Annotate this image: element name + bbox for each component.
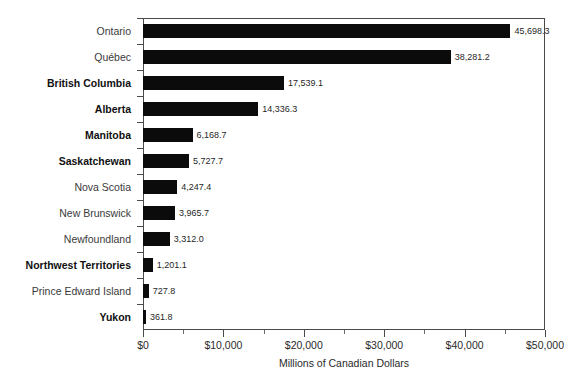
x-axis-major-tick [304, 330, 305, 337]
bar-value-label: 727.8 [153, 284, 176, 298]
bar-value-label: 3,312.0 [174, 232, 204, 246]
x-axis-major-tick [384, 330, 385, 337]
x-axis-minor-tick [424, 330, 425, 334]
x-axis-minor-tick [344, 330, 345, 334]
bars-layer: 45,698.338,281.217,539.114,336.36,168.75… [143, 18, 545, 330]
x-axis-tick-label: $20,000 [285, 339, 323, 351]
y-axis-tick [137, 278, 143, 279]
bar-value-label: 4,247.4 [181, 180, 211, 194]
bar-value-label: 38,281.2 [455, 50, 490, 64]
bar [143, 206, 175, 220]
bar [143, 180, 177, 194]
category-label: Saskatchewan [59, 154, 131, 168]
y-axis-tick [137, 122, 143, 123]
y-axis-tick [137, 174, 143, 175]
bar-value-label: 1,201.1 [157, 258, 187, 272]
category-label: Prince Edward Island [32, 284, 131, 298]
category-label: Nova Scotia [74, 180, 131, 194]
bar [143, 310, 146, 324]
x-axis-minor-tick [505, 330, 506, 334]
bar [143, 284, 149, 298]
category-label: Alberta [95, 102, 131, 116]
x-axis-minor-tick [264, 330, 265, 334]
x-axis-minor-tick [183, 330, 184, 334]
category-axis-labels: OntarioQuébecBritish ColumbiaAlbertaMani… [0, 18, 137, 330]
bar [143, 76, 284, 90]
bar [143, 154, 189, 168]
category-label: New Brunswick [59, 206, 131, 220]
category-label: Yukon [99, 310, 131, 324]
bar-value-label: 361.8 [150, 310, 173, 324]
bar-value-label: 14,336.3 [262, 102, 297, 116]
x-axis-major-tick [143, 330, 144, 337]
category-label: British Columbia [47, 76, 131, 90]
bar-value-label: 45,698.3 [514, 24, 549, 38]
x-axis-tick-label: $10,000 [204, 339, 242, 351]
x-axis-major-tick [223, 330, 224, 337]
bar [143, 24, 510, 38]
y-axis-tick [137, 148, 143, 149]
y-axis-tick [137, 18, 143, 19]
x-axis-tick-label: $40,000 [446, 339, 484, 351]
category-label: Manitoba [85, 128, 131, 142]
bar [143, 50, 451, 64]
bar-value-label: 17,539.1 [288, 76, 323, 90]
bar-value-label: 3,965.7 [179, 206, 209, 220]
bar [143, 128, 193, 142]
y-axis-tick [137, 200, 143, 201]
y-axis-tick [137, 226, 143, 227]
category-label: Québec [94, 50, 131, 64]
x-axis-tick-label: $30,000 [365, 339, 403, 351]
bar [143, 102, 258, 116]
category-label: Northwest Territories [26, 258, 131, 272]
x-axis-title: Millions of Canadian Dollars [143, 357, 545, 369]
bar [143, 232, 170, 246]
bar [143, 258, 153, 272]
x-axis-tick-label: $0 [137, 339, 149, 351]
bar-value-label: 6,168.7 [197, 128, 227, 142]
y-axis-tick [137, 252, 143, 253]
x-axis-major-tick [545, 330, 546, 337]
x-axis-tick-label: $50,000 [526, 339, 564, 351]
category-label: Ontario [97, 24, 131, 38]
y-axis-tick [137, 96, 143, 97]
bar-chart: OntarioQuébecBritish ColumbiaAlbertaMani… [0, 0, 580, 384]
y-axis-tick [137, 44, 143, 45]
y-axis-tick [137, 70, 143, 71]
bar-value-label: 5,727.7 [193, 154, 223, 168]
x-axis-major-tick [465, 330, 466, 337]
category-label: Newfoundland [64, 232, 131, 246]
y-axis-tick [137, 304, 143, 305]
